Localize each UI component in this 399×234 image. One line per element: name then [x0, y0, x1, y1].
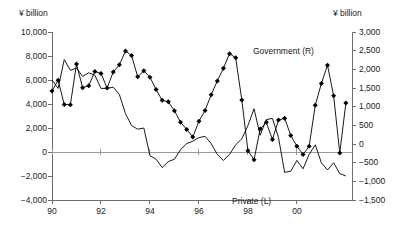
data-point-marker: [282, 116, 287, 121]
left-axis-tick-label: 2,000: [2, 124, 47, 133]
series-line-government: [52, 51, 346, 160]
series-line-private: [52, 60, 346, 176]
data-point-marker: [203, 108, 208, 113]
right-axis-tick-label: 2,000: [359, 65, 380, 74]
data-point-marker: [276, 118, 281, 123]
data-point-marker: [233, 55, 238, 60]
right-axis-tick-label: 2,500: [359, 46, 380, 55]
left-axis-tick-label: −4,000: [2, 196, 47, 205]
right-axis-tick-label: −1,000: [359, 177, 385, 186]
data-point-marker: [74, 62, 79, 67]
data-point-marker: [98, 71, 103, 76]
data-point-marker: [252, 157, 257, 162]
data-point-marker: [239, 97, 244, 102]
data-point-marker: [196, 119, 201, 124]
left-axis-tick-label: 0: [2, 148, 47, 157]
x-axis-tick-label: 00: [285, 207, 309, 216]
left-axis-tick-label: 6,000: [2, 76, 47, 85]
right-axis-tick-label: 500: [359, 121, 373, 130]
data-point-marker: [160, 98, 165, 103]
data-point-marker: [270, 137, 275, 142]
data-point-marker: [80, 85, 85, 90]
series-label-government: Government (R): [253, 46, 314, 56]
right-axis-tick-label: 1,500: [359, 84, 380, 93]
data-point-marker: [215, 78, 220, 83]
data-point-marker: [86, 83, 91, 88]
data-point-marker: [209, 92, 214, 97]
data-point-marker: [343, 100, 348, 105]
x-axis-tick-label: 98: [236, 207, 260, 216]
right-axis-tick-label: 1,000: [359, 102, 380, 111]
data-point-marker: [221, 66, 226, 71]
data-point-marker: [313, 103, 318, 108]
right-axis-tick-label: −1,500: [359, 196, 385, 205]
data-point-marker: [227, 51, 232, 56]
data-point-marker: [331, 93, 336, 98]
right-axis-tick-label: −500: [359, 158, 378, 167]
dual-axis-line-chart: ¥ billion ¥ billion 10,0008,0006,0004,00…: [0, 0, 399, 234]
left-axis-tick-label: −2,000: [2, 172, 47, 181]
right-axis-tick-label: 0: [359, 140, 364, 149]
data-point-marker: [337, 150, 342, 155]
data-point-marker: [92, 69, 97, 74]
data-point-marker: [68, 102, 73, 107]
series-label-private: Private (L): [232, 196, 271, 206]
data-point-marker: [50, 88, 55, 93]
data-point-marker: [166, 99, 171, 104]
right-axis-tick-label: 3,000: [359, 28, 380, 37]
x-axis-tick-label: 96: [187, 207, 211, 216]
data-point-marker: [62, 102, 67, 107]
x-axis-tick-label: 92: [89, 207, 113, 216]
data-point-marker: [154, 87, 159, 92]
plot-area: [0, 0, 399, 234]
x-axis-tick-label: 94: [138, 207, 162, 216]
data-point-marker: [288, 133, 293, 138]
data-point-marker: [172, 108, 177, 113]
data-point-marker: [325, 63, 330, 68]
left-axis-tick-label: 10,000: [2, 28, 47, 37]
x-axis-tick-label: 90: [40, 207, 64, 216]
data-point-marker: [319, 81, 324, 86]
left-axis-tick-label: 8,000: [2, 52, 47, 61]
left-axis-tick-label: 4,000: [2, 100, 47, 109]
series-markers-government: [50, 49, 349, 163]
